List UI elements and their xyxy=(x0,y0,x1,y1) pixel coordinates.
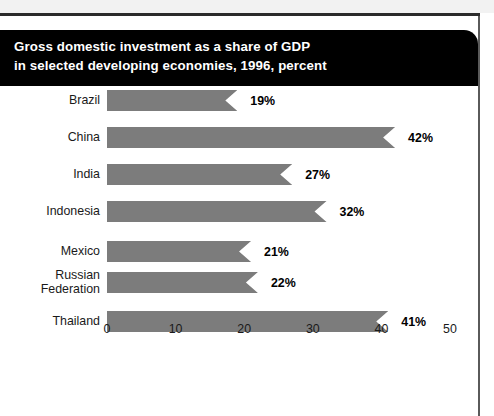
bar-value-label: 27% xyxy=(305,168,330,182)
x-axis-tick-label: 20 xyxy=(237,322,251,336)
bar-value-label: 22% xyxy=(271,276,296,290)
bar xyxy=(107,272,258,293)
bar-fill xyxy=(107,164,292,185)
bar-fill xyxy=(107,241,251,262)
bar-fill xyxy=(107,272,258,293)
category-label: Brazil xyxy=(69,93,100,107)
chart-title-line-2: in selected developing economies, 1996, … xyxy=(14,56,478,75)
x-axis-tick-label: 10 xyxy=(169,322,183,336)
bar-value-label: 21% xyxy=(264,245,289,259)
chart-figure: Gross domestic investment as a share of … xyxy=(0,0,494,416)
bar xyxy=(107,201,327,222)
category-label: Russian Federation xyxy=(41,268,100,296)
bar-fill xyxy=(107,90,237,111)
right-vertical-rule xyxy=(478,16,480,416)
category-label: Indonesia xyxy=(46,204,100,218)
x-axis-tick-label: 0 xyxy=(104,322,111,336)
x-axis: 01020304050 xyxy=(0,322,478,342)
x-axis-tick-label: 30 xyxy=(306,322,320,336)
bar-fill xyxy=(107,201,327,222)
x-axis-tick-label: 50 xyxy=(443,322,457,336)
chart-title-banner: Gross domestic investment as a share of … xyxy=(0,30,478,86)
bar xyxy=(107,90,237,111)
chart-title-line-1: Gross domestic investment as a share of … xyxy=(14,37,478,56)
category-label: Mexico xyxy=(61,244,100,258)
top-margin-strip xyxy=(0,0,494,13)
bar-value-label: 32% xyxy=(340,205,365,219)
x-axis-tick-label: 40 xyxy=(374,322,388,336)
plot-area: Brazil19%China42%India27%Indonesia32%Mex… xyxy=(0,86,478,346)
bar xyxy=(107,127,395,148)
bar-value-label: 19% xyxy=(250,94,275,108)
top-horizontal-rule xyxy=(0,13,480,16)
bar-fill xyxy=(107,127,395,148)
category-label: India xyxy=(73,167,100,181)
bar-value-label: 42% xyxy=(408,131,433,145)
bar xyxy=(107,164,292,185)
bar xyxy=(107,241,251,262)
category-label: China xyxy=(68,130,100,144)
